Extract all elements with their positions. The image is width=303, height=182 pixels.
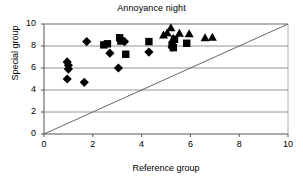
marker-diamond [105,49,114,58]
marker-triangle [208,33,217,41]
marker-diamond [82,37,91,46]
marker-square [145,38,152,45]
identity-reference-line [44,24,288,134]
data-markers [63,23,217,87]
identity-line [44,24,288,134]
marker-diamond [144,47,153,56]
marker-diamond [80,78,89,87]
marker-triangle [185,29,194,37]
marker-triangle [175,29,184,37]
marker-square [117,37,124,44]
marker-diamond [114,63,123,72]
marker-square [104,40,111,47]
marker-triangle [201,33,210,41]
plot-area [0,0,303,182]
marker-square [183,40,190,47]
marker-square [170,44,177,51]
chart-figure: Annoyance night Special group Reference … [0,0,303,182]
marker-square [122,51,129,58]
marker-diamond [63,74,72,83]
marker-triangle [166,23,175,31]
